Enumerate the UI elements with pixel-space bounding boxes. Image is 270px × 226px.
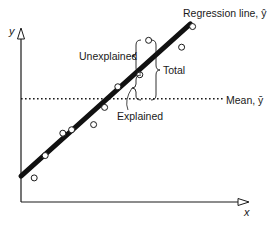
data-point [60, 130, 66, 136]
data-point [42, 153, 48, 159]
total-brace [151, 40, 160, 100]
data-point [31, 175, 37, 181]
x-axis-label: x [243, 206, 250, 218]
total-label: Total [163, 64, 185, 76]
data-point [91, 122, 97, 128]
explained-brace [132, 75, 141, 100]
data-point [102, 104, 108, 110]
regression-line-label: Regression line, ŷ [183, 7, 267, 19]
highlighted-data-point [146, 37, 152, 43]
data-points [31, 24, 195, 181]
mean-label: Mean, ȳ [226, 94, 264, 106]
x-axis-arrow-icon [238, 199, 249, 206]
regression-diagram: y x Mean, ȳ Regression line, ŷ Unexplain… [0, 0, 270, 226]
data-point [190, 24, 196, 30]
unexplained-label: Unexplained [79, 50, 138, 62]
data-point [69, 127, 75, 133]
data-point [115, 84, 121, 90]
data-point [179, 44, 185, 50]
explained-label: Explained [117, 110, 163, 122]
y-axis-label: y [8, 25, 16, 37]
y-axis-arrow-icon [18, 28, 25, 39]
